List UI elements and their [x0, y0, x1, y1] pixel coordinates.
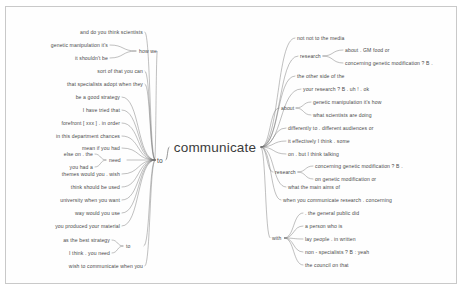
right-group-2-leaf-1: on genetic modification or [315, 176, 376, 182]
left-leaf-1: sort of that you can [97, 68, 143, 74]
left-hub-to: to [157, 157, 163, 164]
left-leaf-0: and do you think scientists [80, 29, 143, 35]
left-leaf-2: that specialists adopt when they [67, 81, 143, 87]
left-leaf-9: think should be used [71, 184, 120, 190]
left-group-2-leaf-1: I think . you need [69, 250, 110, 256]
right-group-3-leaf-0: . the general public did [305, 210, 359, 216]
right-group-1-leaf-1: what scientists are doing [313, 112, 372, 118]
left-group-1-leaf-1: you had a [70, 164, 93, 170]
right-leaf-3: differently to . different audiences or [288, 125, 373, 131]
right-group-hub-3: with [272, 235, 282, 241]
left-group-0-leaf-1: it shouldn't be [75, 55, 108, 61]
left-group-1-leaf-0: else on . the [64, 151, 93, 157]
left-leaf-10: university when you want [60, 197, 120, 203]
right-group-hub-0: research [300, 53, 321, 59]
right-leaf-7: when you communicate research . concerni… [283, 197, 392, 203]
left-leaf-5: forefront [ xxx ] . in order [61, 120, 120, 126]
center-node-communicate[interactable]: communicate [174, 140, 256, 155]
right-leaf-0: not not to the media [297, 35, 344, 41]
right-group-0-leaf-0: about . GM food or [345, 47, 390, 53]
left-leaf-12: you produced your material [55, 223, 120, 229]
left-group-hub-1: need [109, 157, 121, 163]
right-leaf-4: it effectively I think . some [288, 138, 350, 144]
right-leaf-1: the other side of the [297, 73, 345, 79]
left-leaf-4: I have tried that [83, 107, 120, 113]
left-leaf-3: be a good strategy [76, 94, 120, 100]
right-group-1-leaf-0: genetic manipulation it's how [313, 99, 381, 105]
left-leaf-11: way would you use [75, 210, 120, 216]
right-group-2-leaf-0: concerning genetic modification ? B . [315, 163, 403, 169]
right-group-3-leaf-1: a person who is [305, 223, 342, 229]
left-group-hub-2: to [126, 243, 131, 249]
right-group-hub-1: about [281, 105, 294, 111]
left-leaf-6: in this department chances [56, 133, 120, 139]
left-group-2-leaf-0: as the best strategy [63, 237, 110, 243]
left-leaf-8: themes would you . wish [62, 171, 120, 177]
right-leaf-2: your research ? B . uh ! . ok [303, 86, 369, 92]
right-group-0-leaf-1: concerning genetic modification ? B . [345, 60, 433, 66]
right-group-3-leaf-2: lay people . in written [305, 236, 356, 242]
right-group-hub-2: research [275, 169, 296, 175]
right-group-3-leaf-4: the council on that [305, 262, 349, 268]
left-group-0-leaf-0: genetic manipulation it's [51, 42, 108, 48]
right-leaf-6: what the main aims of [288, 184, 340, 190]
right-group-3-leaf-3: non - specialists ? B : yeah [305, 249, 369, 255]
left-leaf-13: wish to communicate when you [69, 263, 143, 269]
right-leaf-5: on . but I think talking [288, 151, 339, 157]
left-group-hub-0: how we [139, 48, 157, 54]
